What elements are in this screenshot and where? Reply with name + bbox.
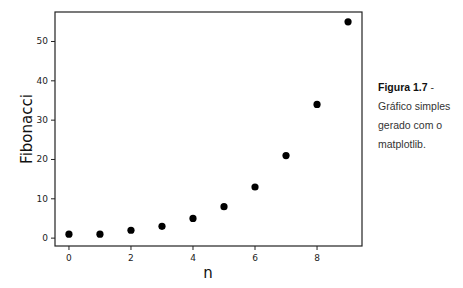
data-point (344, 18, 351, 25)
data-point (220, 203, 227, 210)
y-tick-label: 20 (37, 154, 49, 164)
y-tick-label: 30 (37, 115, 49, 125)
data-point (158, 223, 165, 230)
x-tick-label: 4 (190, 253, 196, 263)
y-axis-ticks: 01020304050 (37, 36, 55, 243)
x-axis-ticks: 02468 (66, 246, 320, 263)
data-point (313, 101, 320, 108)
figure-label: Figura 1.7 (378, 81, 428, 93)
y-tick-label: 10 (37, 194, 49, 204)
data-point (282, 152, 289, 159)
x-tick-label: 2 (128, 253, 134, 263)
data-points (65, 18, 351, 238)
y-tick-label: 50 (37, 36, 49, 46)
y-tick-label: 40 (37, 76, 49, 86)
caption-text: Gráfico simples gerado com o matplotlib. (378, 100, 450, 150)
x-tick-label: 8 (314, 253, 320, 263)
data-point (189, 215, 196, 222)
x-tick-label: 0 (66, 253, 72, 263)
x-axis-label: n (203, 264, 213, 282)
data-point (127, 227, 134, 234)
data-point (65, 231, 72, 238)
plot-frame (55, 12, 362, 246)
y-axis-label: Fibonacci (18, 94, 36, 164)
x-tick-label: 6 (252, 253, 258, 263)
data-point (251, 183, 258, 190)
caption-separator: - (428, 81, 434, 93)
data-point (96, 231, 103, 238)
figure-caption: Figura 1.7 - Gráfico simples gerado com … (378, 78, 463, 154)
y-tick-label: 0 (42, 233, 48, 243)
